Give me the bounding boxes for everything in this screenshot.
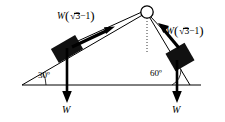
weight-label-left: W (62, 105, 70, 115)
tension-left-coefficient: W (57, 11, 65, 21)
radical-bar (74, 13, 80, 14)
tension-left-minus-one: −1 (80, 11, 90, 21)
diagram-canvas (0, 0, 225, 122)
tension-left-radical-group: √3 (69, 12, 80, 22)
angle-label-right: 60º (150, 69, 162, 78)
tension-right-close-paren: ) (199, 23, 203, 38)
physics-diagram: W(√3−1) W(√3−1) 30º 60º W W (0, 0, 225, 122)
pulley (141, 6, 153, 18)
tension-right-minus-one: −1 (189, 26, 199, 36)
tension-right-coefficient: W (166, 26, 174, 36)
radical-bar (183, 28, 189, 29)
angle-label-left: 30º (38, 71, 50, 80)
tension-right-radical-group: √3 (178, 27, 189, 37)
tension-left-close-paren: ) (90, 8, 94, 23)
weight-label-right: W (172, 105, 180, 115)
tension-label-left: W(√3−1) (57, 9, 95, 22)
tension-label-right: W(√3−1) (166, 24, 204, 37)
